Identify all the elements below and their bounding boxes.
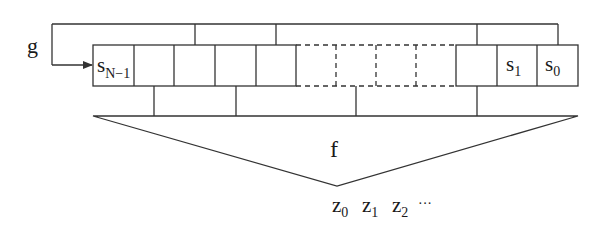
shift-register-diagram: g sN−1 s1 s0 f z0 z1 z2 ···	[0, 0, 602, 234]
output-z0: z0	[332, 193, 348, 220]
output-z1: z1	[362, 193, 378, 220]
register-cells-omitted	[296, 45, 456, 86]
filter-function-label: f	[330, 136, 338, 162]
keystream-outputs: z0 z1 z2 ···	[332, 193, 432, 220]
cell-label-s-n-1: sN−1	[97, 53, 130, 81]
cell-label-s1: s1	[506, 52, 521, 79]
output-ellipsis: ···	[418, 196, 432, 211]
feedback-function-label: g	[27, 33, 38, 58]
cell-label-s0: s0	[545, 52, 560, 79]
output-z2: z2	[392, 193, 408, 220]
filter-taps	[154, 86, 477, 116]
